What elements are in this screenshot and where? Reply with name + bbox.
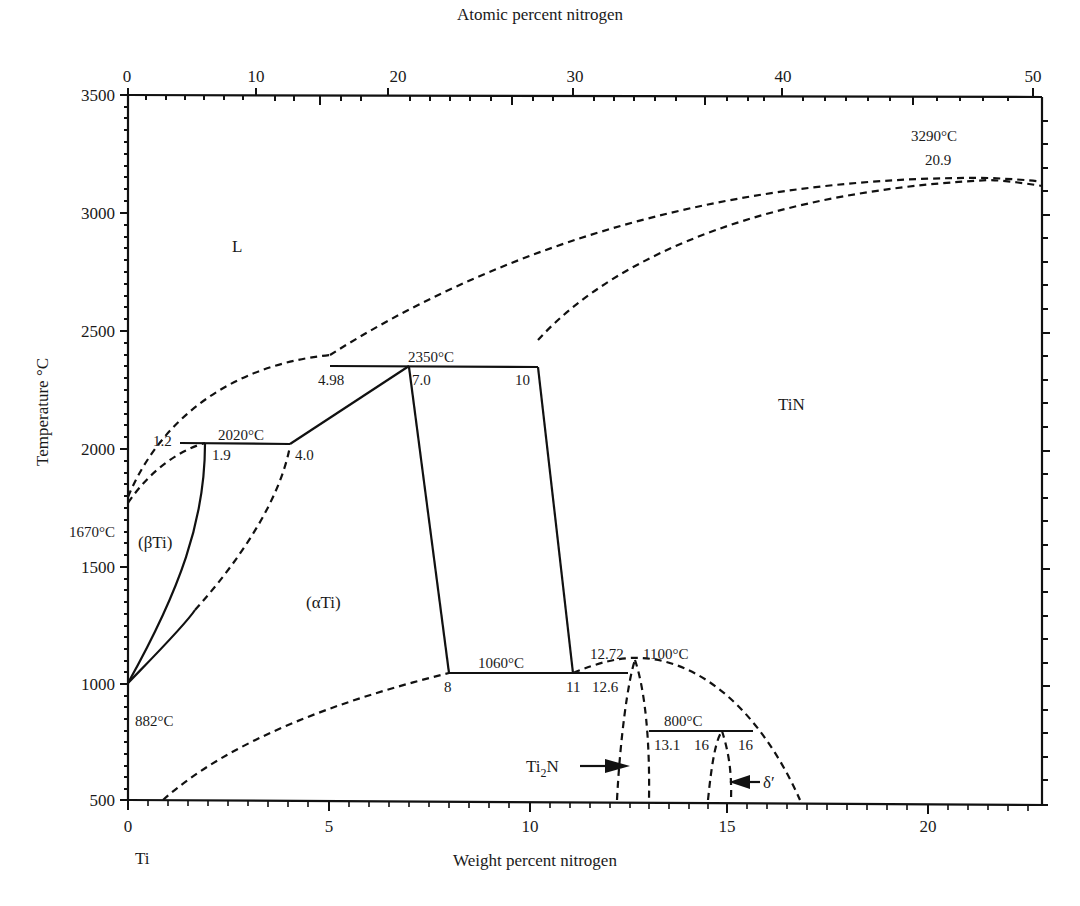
- phase-diagram: 3500 3000 2500 2000 1500 1000 500 0 10 2…: [0, 0, 1080, 906]
- element-label: Ti: [135, 849, 150, 868]
- plot-frame: [128, 95, 1048, 805]
- beta-transus-upper: [128, 444, 205, 683]
- annotation: 4.0: [295, 447, 314, 463]
- right-axis-ticks: [1042, 121, 1050, 780]
- phase-label-tin: TiN: [778, 395, 805, 414]
- x-tick-labels: 0 5 10 15 20: [124, 817, 937, 836]
- alpha-solvus-lower: [163, 673, 449, 800]
- tin-boundary-left: [538, 367, 573, 673]
- x2-tick: 20: [390, 67, 407, 86]
- ti2n-left: [617, 660, 635, 800]
- phase-label-beta-ti: (βTi): [138, 533, 172, 552]
- annotation: 20.9: [925, 152, 951, 168]
- y-tick: 2000: [81, 440, 115, 459]
- x2-tick: 10: [248, 67, 265, 86]
- annotation: 13.1: [654, 737, 680, 753]
- x2-tick: 30: [567, 67, 584, 86]
- annotation: 12.72: [590, 646, 624, 662]
- annotation: 16: [694, 737, 710, 753]
- phase-label-alpha-ti: (αTi): [306, 593, 341, 612]
- annotation: 2020°C: [218, 427, 264, 443]
- annotation: 1.9: [212, 447, 231, 463]
- isotherm-2020: [180, 443, 290, 444]
- liquidus-upper: [330, 178, 1042, 355]
- y-tick: 3500: [81, 86, 115, 105]
- top-axis-title: Atomic percent nitrogen: [457, 5, 624, 24]
- x2-tick-labels: 0 10 20 30 40 50: [123, 67, 1042, 86]
- x2-tick: 50: [1025, 67, 1042, 86]
- y-tick: 3000: [81, 204, 115, 223]
- alpha-boundary-right: [409, 367, 449, 673]
- y-tick-labels: 3500 3000 2500 2000 1500 1000 500: [81, 86, 115, 810]
- annotation: 7.0: [412, 372, 431, 388]
- annotation: 1100°C: [643, 646, 688, 662]
- annotation: 800°C: [664, 713, 703, 729]
- annotation: 1670°C: [69, 524, 115, 540]
- tin-solidus: [538, 180, 1042, 340]
- isotherm-2350: [330, 366, 538, 367]
- annotation: 16: [738, 737, 754, 753]
- annotation: 1.2: [153, 433, 172, 449]
- bottom-axis-title: Weight percent nitrogen: [453, 851, 617, 870]
- y-tick: 1500: [81, 558, 115, 577]
- phase-boundaries: [128, 178, 1042, 800]
- alpha-solvus-dashed: [195, 446, 290, 610]
- x2-tick: 0: [123, 67, 132, 86]
- y-tick: 500: [90, 791, 116, 810]
- phase-label-ti2n: Ti2N: [526, 757, 559, 780]
- annotation: 8: [444, 679, 452, 695]
- y-axis-ticks: [120, 95, 128, 800]
- x-tick: 15: [719, 817, 736, 836]
- annotation: 882°C: [135, 713, 174, 729]
- phase-label-delta-prime: δ′: [763, 773, 775, 792]
- phase-label-liquid: L: [232, 237, 242, 256]
- y-tick: 2500: [81, 322, 115, 341]
- x-tick: 10: [522, 817, 539, 836]
- ti2n-arrow: [580, 759, 630, 773]
- annotation: 12.6: [592, 679, 619, 695]
- ti2n-right: [635, 660, 649, 800]
- delta-left: [708, 731, 722, 800]
- x-tick: 5: [325, 817, 334, 836]
- beta-liquidus: [128, 355, 330, 497]
- annotation: 1060°C: [478, 655, 524, 671]
- annotations: 3290°C 20.9 2350°C 4.98 7.0 10 2020°C 1.…: [69, 128, 957, 753]
- delta-right: [722, 731, 731, 800]
- x2-tick: 40: [775, 67, 792, 86]
- annotation: 4.98: [318, 372, 344, 388]
- y-axis-title: Temperature °C: [33, 358, 52, 466]
- beta-transus-lower: [128, 610, 195, 683]
- x-tick: 20: [920, 817, 937, 836]
- alpha-liquidus: [290, 366, 409, 444]
- annotation: 11: [566, 679, 580, 695]
- y-tick: 1000: [81, 675, 115, 694]
- annotation: 2350°C: [408, 349, 454, 365]
- annotation: 3290°C: [911, 128, 957, 144]
- x-tick: 0: [124, 817, 133, 836]
- annotation: 10: [515, 372, 530, 388]
- delta-arrow: [729, 775, 760, 789]
